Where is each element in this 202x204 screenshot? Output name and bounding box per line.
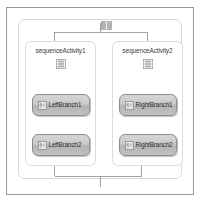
code-activity-icon (38, 141, 47, 150)
sequence-activity-icon (143, 59, 153, 69)
sequence-activity-2[interactable]: sequenceActivity2 RightBranch1 (112, 41, 183, 166)
sequence-activity-2-label: sequenceActivity2 (113, 47, 182, 54)
code-activity-icon (125, 141, 134, 150)
workflow-design-surface[interactable]: sequenceActivity1 LeftBranch1 (6, 7, 194, 195)
code-activity-icon (38, 101, 47, 110)
activity-left-branch-2[interactable]: LeftBranch2 (32, 134, 90, 156)
parallel-activity-icon (101, 21, 112, 30)
activity-right-branch-2-label: RightBranch2 (136, 135, 173, 155)
activity-left-branch-2-label: LeftBranch2 (49, 135, 86, 155)
sequence-activity-1-label: sequenceActivity1 (26, 47, 95, 54)
sequence-activity-1[interactable]: sequenceActivity1 LeftBranch1 (25, 41, 96, 166)
activity-left-branch-1[interactable]: LeftBranch1 (32, 94, 90, 116)
activity-left-branch-1-label: LeftBranch1 (49, 95, 86, 115)
sequence-activity-icon (56, 59, 66, 69)
code-activity-icon (125, 101, 134, 110)
activity-right-branch-1-label: RightBranch1 (136, 95, 173, 115)
activity-right-branch-1[interactable]: RightBranch1 (119, 94, 177, 116)
activity-right-branch-2[interactable]: RightBranch2 (119, 134, 177, 156)
